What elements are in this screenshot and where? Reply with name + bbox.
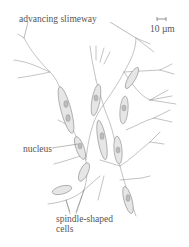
slime-net-illustration xyxy=(0,0,189,247)
scale-bar-line xyxy=(157,17,166,21)
scale-bar-label: 10 µm xyxy=(150,24,175,34)
label-nucleus: nucleus xyxy=(23,144,52,154)
label-advancing-slimeway: advancing slimeway xyxy=(19,14,97,24)
label-spindle-line1: spindle-shaped xyxy=(56,214,113,224)
label-spindle-line2: cells xyxy=(56,224,113,234)
label-spindle-shaped-cells: spindle-shaped cells xyxy=(56,214,113,234)
